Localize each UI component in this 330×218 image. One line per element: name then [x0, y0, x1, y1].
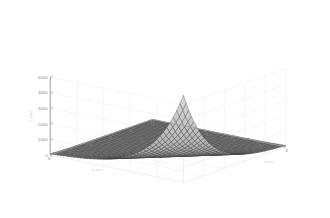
x-axis-title: x-axis — [264, 159, 275, 164]
figure-canvas: 010002000300040005000123456123456 y-axis… — [0, 0, 330, 218]
surface-plot-3d: 010002000300040005000123456123456 y-axis… — [0, 0, 330, 218]
z-tick-3000: 3000 — [38, 106, 48, 111]
y-axis-title: y-axis — [92, 167, 103, 172]
plot-background — [0, 0, 330, 218]
z-tick-1000: 1000 — [38, 137, 48, 142]
z-tick-4000: 4000 — [38, 90, 48, 95]
z-tick-5000: 5000 — [38, 75, 48, 80]
z-tick-2000: 2000 — [38, 122, 48, 127]
z-axis-title: z-axis — [28, 111, 33, 122]
